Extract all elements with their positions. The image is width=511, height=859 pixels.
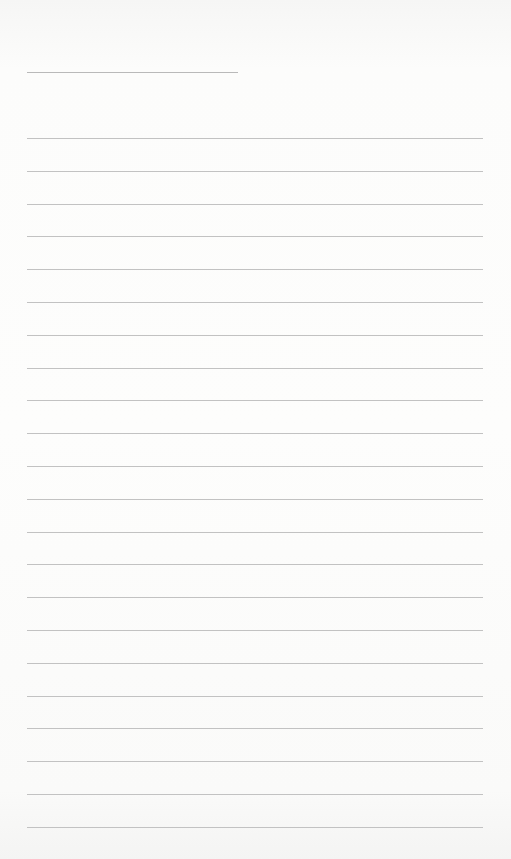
- ruled-line: [27, 499, 483, 500]
- ruled-line: [27, 564, 483, 565]
- title-line: [27, 72, 238, 73]
- ruled-line: [27, 696, 483, 697]
- ruled-line: [27, 204, 483, 205]
- ruled-line: [27, 761, 483, 762]
- ruled-line: [27, 827, 483, 828]
- ruled-line: [27, 728, 483, 729]
- ruled-line: [27, 400, 483, 401]
- ruled-line: [27, 302, 483, 303]
- ruled-line: [27, 433, 483, 434]
- ruled-line: [27, 630, 483, 631]
- lined-paper-page: [0, 0, 511, 859]
- ruled-line: [27, 663, 483, 664]
- ruled-line: [27, 171, 483, 172]
- ruled-line: [27, 236, 483, 237]
- ruled-line: [27, 138, 483, 139]
- ruled-line: [27, 269, 483, 270]
- ruled-line: [27, 335, 483, 336]
- ruled-line: [27, 466, 483, 467]
- ruled-line: [27, 794, 483, 795]
- ruled-line: [27, 532, 483, 533]
- ruled-line: [27, 368, 483, 369]
- ruled-line: [27, 597, 483, 598]
